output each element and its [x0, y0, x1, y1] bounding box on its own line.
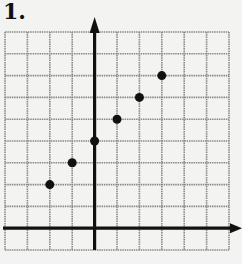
- coordinate-grid: [0, 0, 242, 264]
- data-point: [113, 115, 122, 124]
- data-point: [135, 93, 144, 102]
- x-axis-arrow-icon: [230, 223, 242, 233]
- data-point: [157, 71, 166, 80]
- y-axis-arrow-icon: [90, 17, 100, 33]
- data-point: [68, 158, 77, 167]
- data-point: [45, 180, 54, 189]
- data-point: [90, 137, 99, 146]
